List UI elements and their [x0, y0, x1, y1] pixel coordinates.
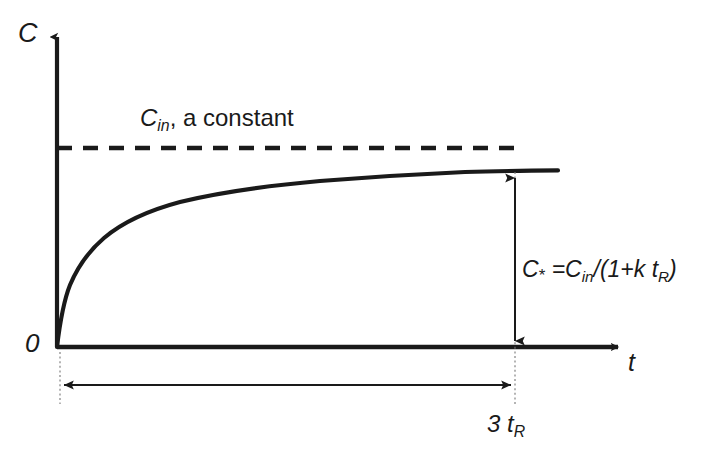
cstar-t-symbol: t — [645, 256, 658, 282]
cstar-equals: = — [545, 256, 565, 282]
figure-canvas: C t 0 Cin, a constant C* =Cin/(1+k tR) 3… — [0, 0, 727, 463]
tr-number: 3 — [487, 410, 500, 437]
y-axis-label: C — [18, 20, 38, 47]
x-axis-label: t — [628, 350, 635, 375]
cstar-symbol: C — [522, 256, 539, 282]
concentration-curve — [57, 170, 558, 347]
tr-subscript: R — [514, 423, 525, 440]
cin-annotation-label: Cin, a constant — [140, 106, 294, 130]
cstar-t-subscript: R — [658, 268, 669, 285]
origin-label: 0 — [25, 330, 39, 356]
cstar-cin-symbol: C — [565, 256, 582, 282]
cstar-formula-label: C* =Cin/(1+k tR) — [522, 258, 677, 281]
plot-svg — [0, 0, 727, 463]
cstar-star-subscript: * — [539, 266, 546, 285]
x-tick-label-3tr: 3 tR — [487, 412, 525, 436]
cstar-denominator-open: /(1+ — [594, 256, 634, 282]
cin-symbol: C — [140, 104, 157, 131]
cin-subscript: in — [157, 117, 169, 134]
tr-symbol: t — [500, 410, 513, 437]
cin-rest-text: , a constant — [170, 104, 294, 131]
cstar-cin-subscript: in — [582, 268, 594, 285]
cstar-close-paren: ) — [669, 256, 677, 282]
cstar-k-symbol: k — [634, 256, 646, 282]
